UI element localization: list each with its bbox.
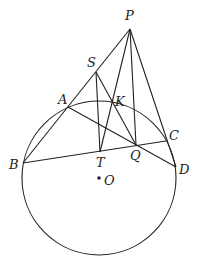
label-point-O: O (104, 173, 115, 188)
label-point-Q: Q (130, 148, 141, 163)
label-point-A: A (57, 92, 67, 107)
segment-AD (68, 107, 176, 167)
geometry-diagram: PSAKBTQCDO (0, 0, 201, 270)
segments (23, 29, 176, 167)
segment-BC (23, 141, 166, 163)
segment-PQ (130, 29, 136, 145)
segment-PD (130, 29, 176, 167)
center-dot-O (97, 176, 101, 180)
label-point-K: K (114, 94, 126, 109)
label-point-C: C (169, 128, 179, 143)
label-point-D: D (178, 162, 190, 177)
label-point-P: P (124, 8, 134, 23)
label-point-B: B (8, 157, 19, 172)
diagram-svg: PSAKBTQCDO (0, 0, 201, 270)
label-point-T: T (96, 155, 106, 170)
label-point-S: S (87, 55, 96, 70)
segment-ST (96, 72, 100, 152)
